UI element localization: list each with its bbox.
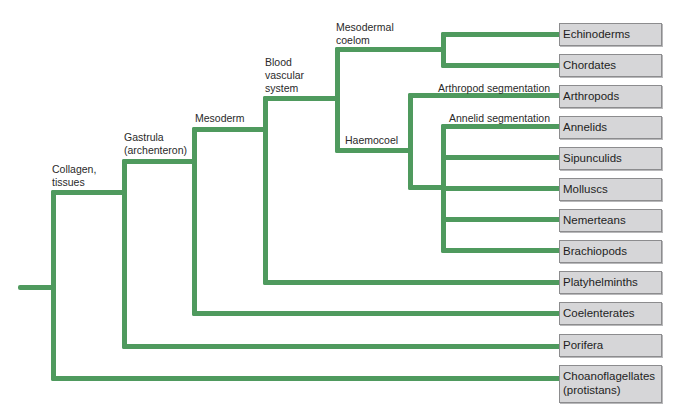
taxon-echinoderms: Echinoderms xyxy=(559,23,662,46)
blood-to-split xyxy=(263,96,340,101)
coelenterates-branch xyxy=(192,311,561,316)
echinoderms-branch xyxy=(441,32,561,37)
brachiopods-branch xyxy=(441,248,561,253)
taxon-chordates: Chordates xyxy=(559,54,662,77)
molluscs-branch xyxy=(441,186,561,191)
gastrula-stem xyxy=(122,159,127,349)
taxon-molluscs: Molluscs xyxy=(559,178,662,201)
node-label-blood-vascular: Blood vascular system xyxy=(265,56,304,95)
taxon-sipunculids: Sipunculids xyxy=(559,147,662,170)
haemocoel-branch xyxy=(335,148,413,153)
chordates-branch xyxy=(441,63,561,68)
node-label-collagen: Collagen, tissues xyxy=(52,163,96,189)
haemocoel-stem xyxy=(408,93,413,190)
taxon-platyhelminths: Platyhelminths xyxy=(559,271,662,294)
taxon-brachiopods: Brachiopods xyxy=(559,240,662,263)
coelom-branch xyxy=(335,47,446,52)
coelom-haemocoel-stem xyxy=(335,47,340,153)
gastrula-to-mesoderm xyxy=(122,159,197,164)
nemerteans-branch xyxy=(441,217,561,222)
sipunculids-branch xyxy=(441,155,561,160)
taxon-choanoflagellates: Choanoflagellates (protistans) xyxy=(559,365,662,403)
node-label-arthropod-segmentation: Arthropod segmentation xyxy=(438,82,550,95)
collagen-to-gastrula xyxy=(51,190,127,195)
collagen-stem xyxy=(51,190,56,381)
node-label-mesodermal-coelom: Mesodermal coelom xyxy=(336,21,394,47)
blood-stem xyxy=(263,96,268,285)
choanoflagellates-branch xyxy=(51,376,561,381)
node-label-haemocoel: Haemocoel xyxy=(345,134,398,147)
mesoderm-stem xyxy=(192,127,197,316)
mesoderm-to-blood xyxy=(192,127,268,132)
porifera-branch xyxy=(122,344,561,349)
taxon-porifera: Porifera xyxy=(559,334,662,357)
taxon-arthropods: Arthropods xyxy=(559,85,662,108)
taxon-coelenterates: Coelenterates xyxy=(559,302,662,325)
platyhelminths-branch xyxy=(263,280,561,285)
taxon-annelids: Annelids xyxy=(559,116,662,139)
node-label-gastrula: Gastrula (archenteron) xyxy=(124,131,187,157)
taxon-nemerteans: Nemerteans xyxy=(559,209,662,232)
node-label-mesoderm: Mesoderm xyxy=(195,112,245,125)
node-label-annelid-segmentation: Annelid segmentation xyxy=(449,112,550,125)
